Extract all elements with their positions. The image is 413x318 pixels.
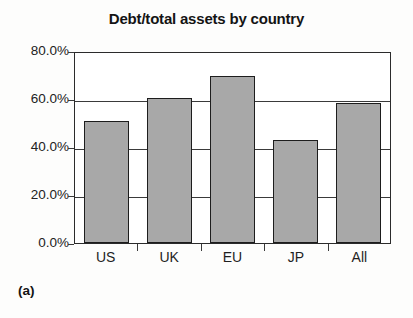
- bar-slot: [138, 53, 201, 243]
- x-axis-label-uk: UK: [137, 249, 200, 265]
- bar-slot: [75, 53, 138, 243]
- y-axis-tick-label: 0.0%: [5, 235, 69, 250]
- x-axis-label-jp: JP: [264, 249, 327, 265]
- chart-title: Debt/total assets by country: [0, 10, 413, 27]
- figure-caption: (a): [18, 283, 35, 298]
- bar-slot: [201, 53, 264, 243]
- x-axis: USUKEUJPAll: [74, 249, 391, 265]
- bar-slot: [327, 53, 390, 243]
- bar-eu[interactable]: [210, 76, 255, 243]
- y-axis-tick-mark: [68, 244, 74, 245]
- figure-panel: Debt/total assets by country 0.0%20.0%40…: [0, 0, 413, 318]
- y-axis-tick-label: 60.0%: [5, 91, 69, 106]
- x-axis-label-eu: EU: [201, 249, 264, 265]
- y-axis-tick-label: 20.0%: [5, 187, 69, 202]
- y-axis-tick-label: 80.0%: [5, 43, 69, 58]
- bar-jp[interactable]: [273, 140, 318, 243]
- bar-us[interactable]: [84, 121, 129, 243]
- x-axis-label-all: All: [328, 249, 391, 265]
- x-axis-label-us: US: [74, 249, 137, 265]
- bar-slot: [264, 53, 327, 243]
- bar-series: [75, 53, 390, 243]
- y-axis-tick-label: 40.0%: [5, 139, 69, 154]
- bar-all[interactable]: [336, 103, 381, 243]
- bar-uk[interactable]: [147, 98, 192, 243]
- plot-area: [74, 52, 391, 244]
